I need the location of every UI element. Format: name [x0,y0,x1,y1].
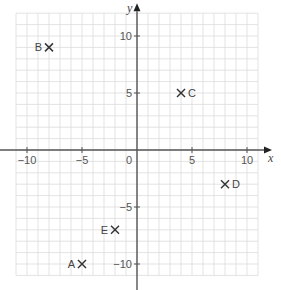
x-tick-label: −10 [18,154,37,166]
point-label: D [232,178,240,190]
y-tick-label: 5 [126,87,132,99]
x-tick-label: 5 [189,154,195,166]
point-label: C [188,87,196,99]
y-tick-label: 10 [120,30,132,42]
x-tick-label: −5 [76,154,89,166]
x-axis-label: x [267,151,274,165]
y-axis-arrow-icon [134,3,141,11]
coordinate-plane: xy −10−5510105−5−100 ABCDE [0,0,281,290]
origin-label: 0 [126,154,132,166]
point-label: E [101,224,108,236]
y-tick-label: −10 [113,258,132,270]
y-axis-label: y [126,1,133,15]
point-label: B [35,41,42,53]
x-tick-label: 10 [241,154,253,166]
point-label: A [68,258,76,270]
y-tick-label: −5 [119,201,132,213]
